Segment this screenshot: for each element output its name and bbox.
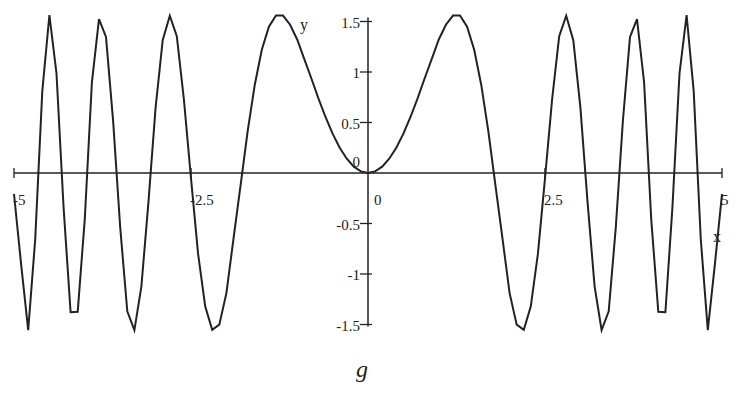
y-tick-label: 1.5 <box>341 15 360 31</box>
x-tick-label: 0 <box>374 192 382 208</box>
y-tick-label: -1 <box>348 267 361 283</box>
y-tick-label: 1 <box>353 65 361 81</box>
y-tick-label: 0.5 <box>341 116 360 132</box>
y-tick-label: -0.5 <box>336 217 360 233</box>
y-axis-label: y <box>300 16 308 34</box>
x-tick-label: 2.5 <box>544 192 563 208</box>
x-axis-label: x <box>713 228 721 245</box>
y-tick-label: -1.5 <box>336 318 360 334</box>
plot-caption: g <box>356 356 368 383</box>
axes: -5-2.502.55-1.5-1-0.500.511.5 <box>13 15 729 334</box>
chart-plot-area: -5-2.502.55-1.5-1-0.500.511.5 x y <box>0 0 742 400</box>
